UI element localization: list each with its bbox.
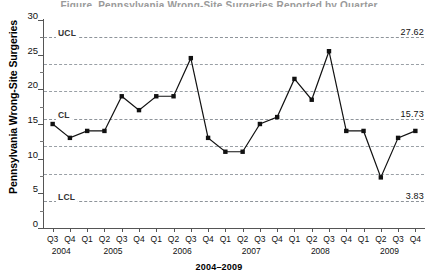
data-point bbox=[310, 98, 314, 102]
x-tick bbox=[329, 228, 330, 232]
series-markers bbox=[50, 49, 417, 180]
x-tick bbox=[156, 228, 157, 232]
data-point bbox=[327, 49, 331, 53]
control-limit-value-cl: 15.73 bbox=[398, 109, 426, 119]
control-limit-value-ucl: 27.62 bbox=[398, 27, 426, 37]
x-axis-line bbox=[43, 228, 425, 229]
y-tick-label: 5 bbox=[14, 188, 38, 189]
y-tick-label: 15 bbox=[14, 119, 38, 120]
x-tick bbox=[208, 228, 209, 232]
x-tick bbox=[53, 228, 54, 232]
data-point bbox=[137, 108, 141, 112]
x-axis-title: 2004–2009 bbox=[0, 262, 438, 272]
control-chart: Figure. Pennsylvania Wrong-Site Surgerie… bbox=[0, 0, 438, 280]
data-point bbox=[413, 129, 417, 133]
x-tick bbox=[346, 228, 347, 232]
y-tick-label: 25 bbox=[14, 50, 38, 51]
y-tick-label: 20 bbox=[14, 84, 38, 85]
data-point bbox=[275, 115, 279, 119]
series-polyline bbox=[53, 51, 416, 177]
data-point bbox=[292, 77, 296, 81]
x-tick-label-year: 2007 bbox=[231, 246, 271, 256]
x-tick bbox=[104, 228, 105, 232]
data-point bbox=[68, 136, 72, 140]
figure-title-clipped: Figure. Pennsylvania Wrong-Site Surgerie… bbox=[0, 0, 438, 7]
y-tick bbox=[38, 228, 44, 229]
data-point bbox=[240, 150, 244, 154]
data-point bbox=[379, 175, 383, 179]
data-point bbox=[120, 94, 124, 98]
x-tick-label-year: 2004 bbox=[41, 246, 81, 256]
x-tick bbox=[87, 228, 88, 232]
series-line bbox=[44, 20, 424, 228]
plot-area: UCL27.62CL15.73LCL3.83 bbox=[44, 20, 424, 228]
x-tick bbox=[139, 228, 140, 232]
data-point bbox=[258, 122, 262, 126]
x-tick bbox=[277, 228, 278, 232]
x-tick bbox=[415, 228, 416, 232]
data-point bbox=[85, 129, 89, 133]
x-tick bbox=[260, 228, 261, 232]
x-tick-label-year: 2005 bbox=[93, 246, 133, 256]
x-tick bbox=[191, 228, 192, 232]
x-tick bbox=[122, 228, 123, 232]
x-tick bbox=[398, 228, 399, 232]
control-limit-value-lcl: 3.83 bbox=[404, 191, 426, 201]
data-point bbox=[50, 122, 54, 126]
control-limit-name-cl: CL bbox=[56, 110, 72, 120]
x-tick bbox=[312, 228, 313, 232]
x-tick bbox=[174, 228, 175, 232]
y-tick-label: 0 bbox=[14, 223, 38, 224]
control-limit-name-ucl: UCL bbox=[56, 28, 78, 38]
data-point bbox=[223, 150, 227, 154]
data-point bbox=[171, 94, 175, 98]
x-tick-label-year: 2008 bbox=[300, 246, 340, 256]
y-tick-label: 10 bbox=[14, 154, 38, 155]
x-tick bbox=[225, 228, 226, 232]
x-tick bbox=[243, 228, 244, 232]
x-tick-label-year: 2006 bbox=[162, 246, 202, 256]
x-tick bbox=[70, 228, 71, 232]
x-tick-label-year: 2009 bbox=[369, 246, 409, 256]
control-limit-name-lcl: LCL bbox=[56, 192, 77, 202]
data-point bbox=[206, 136, 210, 140]
y-axis-title: Pennsylvania Wrong-Site Surgeries bbox=[7, 0, 21, 215]
data-point bbox=[102, 129, 106, 133]
x-tick bbox=[294, 228, 295, 232]
x-tick bbox=[364, 228, 365, 232]
data-point bbox=[189, 56, 193, 60]
data-point bbox=[396, 136, 400, 140]
data-point bbox=[361, 129, 365, 133]
x-tick-label-quarter: Q4 bbox=[402, 234, 428, 244]
data-point bbox=[154, 94, 158, 98]
x-tick bbox=[381, 228, 382, 232]
data-point bbox=[344, 129, 348, 133]
y-tick-label: 30 bbox=[14, 15, 38, 16]
